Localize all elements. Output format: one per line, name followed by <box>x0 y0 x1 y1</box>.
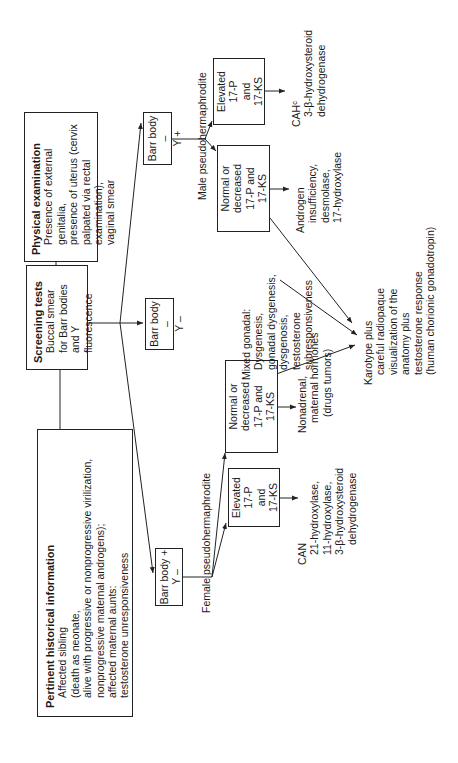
pertinent-line: affected maternal aunts: <box>106 438 118 708</box>
box-line: 17-KS <box>252 59 264 124</box>
box-line: Normal or <box>227 361 239 452</box>
pertinent-history-box: Pertinent historical information Affecte… <box>37 429 133 717</box>
physical-line: palpated via rectal examination), <box>80 119 105 255</box>
box-line: 17-KS <box>256 146 268 231</box>
barr-line: Barr body – <box>148 299 173 349</box>
physical-exam-box: Physical examination Presence of externa… <box>24 112 98 262</box>
pertinent-line: (death as neonate, <box>69 438 81 708</box>
y-line: Y + <box>171 113 183 164</box>
androgen-line: Androgen <box>294 152 306 233</box>
pertinent-line: alive with progressive or nonprogressive… <box>81 438 93 708</box>
mixed-line: testosterone <box>290 274 302 380</box>
cah-outcome: CAHᶜ 3-β-hydroxysteroid dehydrogenase <box>290 30 327 127</box>
pertinent-line: nonprogressive maternal androgens); <box>94 438 106 708</box>
y-line: Y – <box>173 299 185 349</box>
karyotype-line: visualization of the <box>387 227 399 385</box>
barr-neg-y-pos-box: Barr body – Y + <box>143 112 172 165</box>
cah-title: CAHᶜ <box>290 30 302 127</box>
physical-title: Physical examination <box>30 119 42 255</box>
male-elevated-box: Elevated17-Pand17-KS <box>213 58 265 125</box>
flowchart-canvas: Pertinent historical information Affecte… <box>0 0 458 763</box>
karyotype-line: careful radiopaque <box>374 227 386 385</box>
barr-neg-y-neg-box: Barr body – Y – <box>145 298 174 350</box>
cah-line: 3-β-hydroxysteroid <box>302 30 314 127</box>
androgen-line: insufficiency, <box>306 152 318 233</box>
barr-pos-y-neg-box: Barr body + Y – <box>155 548 183 606</box>
screening-line: for Barr bodies <box>57 272 69 363</box>
box-line: 17-P <box>227 59 239 124</box>
box-line: and <box>255 469 267 526</box>
physical-line: presence of uterus (cervix <box>67 119 79 255</box>
screening-title: Screening tests <box>32 272 44 363</box>
screening-tests-box: Screening tests Buccal smear for Barr bo… <box>26 265 88 370</box>
can-title: CAN <box>296 468 308 565</box>
karyotype-line: (human chorionic gonadotropin) <box>424 227 436 385</box>
box-line: 17-P <box>242 469 254 526</box>
karyotype-line: Karotype plus <box>362 227 374 385</box>
androgen-line: desmolase, <box>319 152 331 233</box>
male-pseudohermaphrodite-label: Male pseudohermaphrodite <box>196 72 208 200</box>
box-line: and <box>240 59 252 124</box>
mixed-line: dysgenosis, <box>277 274 289 380</box>
physical-line: vaginal smear <box>104 119 116 255</box>
male-normal-box: Normal ordecreased17-P and17-KS <box>217 145 270 232</box>
androgen-line: 17-hydroxylase <box>331 152 343 233</box>
mixed-line: subresponsiveness <box>302 274 314 380</box>
can-outcome: CAN 21-hydroxylase, 11-hydroxylase, 3-β-… <box>296 468 358 565</box>
box-line: 17-KS <box>267 469 279 526</box>
mixed-title: Mixed gonadal: <box>240 274 252 380</box>
box-line: decreased <box>231 146 243 231</box>
nonadrenal-line: (drugs tumors) <box>321 333 333 433</box>
can-line: 21-hydroxylase, <box>308 468 320 565</box>
female-elevated-box: Elevated17-Pand17-KS <box>228 468 280 527</box>
cah-line: dehydrogenase <box>315 30 327 127</box>
barr-line: Barr body + <box>158 549 170 605</box>
can-line: 11-hydroxylase, <box>321 468 333 565</box>
mixed-line: Dysgenesis, <box>252 274 264 380</box>
karyotype-line: anatomy plus <box>399 227 411 385</box>
y-line: Y – <box>170 549 182 605</box>
androgen-outcome: Androgen insufficiency, desmolase, 17-hy… <box>294 152 344 233</box>
box-line: Elevated <box>215 59 227 124</box>
box-line: Elevated <box>230 469 242 526</box>
pertinent-line: testosterone unresponsiveness <box>118 438 130 708</box>
pertinent-title: Pertinent historical information <box>44 438 56 708</box>
karyotype-text: Karotype plus careful radiopaque visuali… <box>362 227 436 385</box>
mixed-line: gonadal dysgenesis, <box>265 274 277 380</box>
can-line: 3-β-hydroxysteroid <box>333 468 345 565</box>
box-line: Normal or <box>219 146 231 231</box>
can-line: dehydrogenase <box>346 468 358 565</box>
mixed-gonadal-text: Mixed gonadal: Dysgenesis, gonadal dysge… <box>240 274 314 380</box>
box-line: 17-P and <box>244 146 256 231</box>
physical-line: Presence of external genitalia, <box>42 119 67 255</box>
screening-line: Buccal smear <box>44 272 56 363</box>
barr-line: Barr body – <box>146 113 171 164</box>
karyotype-line: testosterone response <box>412 227 424 385</box>
female-pseudohermaphrodite-label: Female pseudohermaphrodite <box>200 473 212 613</box>
pertinent-line: Affected sibling <box>56 438 68 708</box>
screening-line: and Y fluorescence <box>69 272 94 363</box>
